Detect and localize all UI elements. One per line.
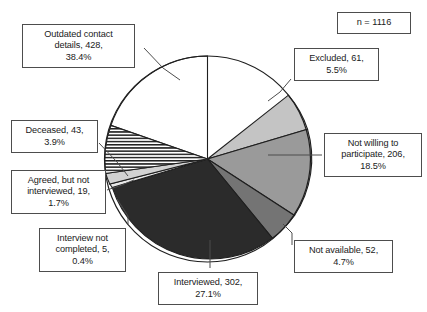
callout-label-interviewed: Interviewed, 302, 27.1%	[174, 277, 242, 300]
callout-label-outdated-contact-details: Outdated contact details, 428, 38.4%	[44, 29, 112, 63]
callout-excluded[interactable]: Excluded, 61, 5.5%	[294, 48, 379, 81]
callout-not-available[interactable]: Not available, 52, 4.7%	[294, 240, 393, 273]
callout-label-excluded: Excluded, 61, 5.5%	[309, 53, 363, 76]
pie-chart-figure: n = 1116 Outdated contact details, 428, …	[0, 0, 427, 312]
callout-label-agreed-but-not-interviewed: Agreed, but not interviewed, 19, 1.7%	[27, 175, 90, 209]
callout-agreed-but-not-interviewed[interactable]: Agreed, but not interviewed, 19, 1.7%	[11, 170, 106, 214]
callout-outdated-contact-details[interactable]: Outdated contact details, 428, 38.4%	[22, 24, 135, 68]
callout-label-interview-not-completed: Interview not completed, 5, 0.4%	[56, 233, 110, 267]
callout-interviewed[interactable]: Interviewed, 302, 27.1%	[158, 272, 258, 305]
callout-label-not-willing-to-participate: Not willing to participate, 206, 18.5%	[341, 138, 405, 172]
callout-interview-not-completed[interactable]: Interview not completed, 5, 0.4%	[39, 228, 126, 272]
callout-label-not-available: Not available, 52, 4.7%	[309, 245, 378, 268]
sample-size-box: n = 1116	[337, 12, 411, 34]
callout-label-deceased: Deceased, 43, 3.9%	[26, 125, 84, 148]
callout-not-willing-to-participate[interactable]: Not willing to participate, 206, 18.5%	[324, 133, 422, 177]
callout-deceased[interactable]: Deceased, 43, 3.9%	[11, 120, 98, 153]
sample-size-label: n = 1116	[357, 17, 392, 28]
